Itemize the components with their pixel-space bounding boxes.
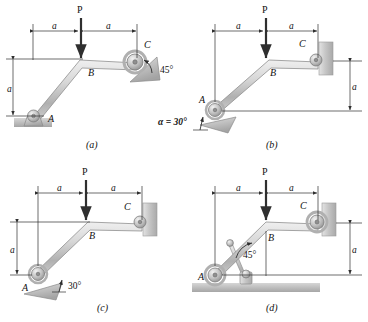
roller-support-c-a bbox=[124, 51, 146, 73]
label-joint-b-c: B bbox=[89, 230, 95, 241]
label-angle-c: 30° bbox=[68, 281, 82, 291]
label-angle-d: 45° bbox=[243, 250, 257, 260]
brace-top-pin-d bbox=[227, 240, 234, 247]
roller-support-a-c bbox=[29, 265, 47, 283]
roller-support-a-b bbox=[206, 101, 224, 119]
caption-b: (b) bbox=[266, 139, 278, 151]
caption-a: (a) bbox=[86, 139, 98, 151]
pin-support-c-c bbox=[134, 216, 146, 228]
label-joint-b-d: B bbox=[268, 232, 274, 243]
label-dim-left-a: a bbox=[52, 21, 57, 31]
label-joint-b: B bbox=[88, 67, 94, 78]
roller-support-c-d bbox=[307, 212, 327, 232]
label-angle-a: 45° bbox=[160, 65, 174, 75]
label-joint-a: A bbox=[47, 113, 55, 124]
panel-c: C A 30° B P a a bbox=[10, 166, 157, 314]
pin-block-d bbox=[240, 270, 252, 284]
label-joint-a-c: A bbox=[21, 282, 29, 293]
label-joint-c-b: C bbox=[299, 38, 306, 49]
panel-a: A C 45° B P a a bbox=[6, 4, 174, 151]
label-load-p-d: P bbox=[262, 166, 268, 177]
caption-d: (d) bbox=[266, 302, 278, 314]
label-dim-left-c: a bbox=[57, 183, 62, 193]
caption-c: (c) bbox=[97, 302, 109, 314]
label-load-p-c: P bbox=[82, 166, 88, 177]
panel-b: C A α = 30° B P a a bbox=[158, 4, 362, 151]
label-dim-right-a: a bbox=[106, 21, 111, 31]
wall-c-d bbox=[322, 203, 336, 236]
label-dim-right-c: a bbox=[111, 183, 116, 193]
pin-support-c-b bbox=[310, 54, 322, 66]
label-joint-a-b: A bbox=[198, 94, 206, 105]
label-dim-vertical-c: a bbox=[10, 245, 15, 255]
label-load-p-a: P bbox=[77, 4, 83, 15]
label-dim-vertical-b: a bbox=[352, 82, 357, 92]
label-joint-a-d: A bbox=[197, 271, 205, 282]
label-joint-c-d: C bbox=[300, 200, 307, 211]
label-dim-right-b: a bbox=[289, 21, 294, 31]
label-angle-b: α = 30° bbox=[158, 117, 187, 127]
label-dim-vertical-a: a bbox=[7, 84, 12, 94]
label-joint-c-c: C bbox=[124, 201, 131, 212]
label-load-p-b: P bbox=[262, 4, 268, 15]
label-joint-b-b: B bbox=[270, 67, 276, 78]
label-dim-left-d: a bbox=[236, 183, 241, 193]
label-joint-c: C bbox=[144, 39, 151, 50]
dimension-horizontal-a bbox=[33, 24, 137, 60]
label-dim-left-b: a bbox=[236, 21, 241, 31]
label-dim-right-d: a bbox=[289, 183, 294, 193]
member-abc-b bbox=[214, 60, 318, 113]
panel-d: C A 45° B P a a bbox=[192, 166, 362, 314]
incline-30-c bbox=[24, 283, 62, 300]
angle-arrow-30-b bbox=[200, 117, 203, 130]
statics-figure: A C 45° B P a a bbox=[0, 0, 368, 322]
label-dim-vertical-d: a bbox=[352, 245, 357, 255]
